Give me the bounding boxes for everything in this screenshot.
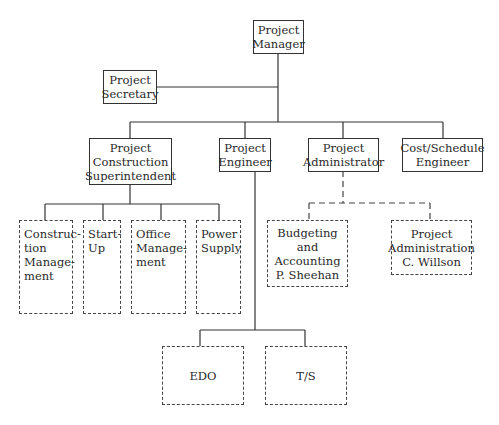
node-label: C. Willson [402,255,461,269]
node-label: tion [24,241,47,255]
node-label: ment [136,255,166,269]
node-label: Supply [201,241,241,255]
node-label: Project [411,227,453,241]
node-label: T/S [296,369,315,383]
node-label: Budgeting [277,226,337,240]
node-label: Superintendent [85,169,176,183]
node-construction-management: Construc- tion Manage- ment [19,220,73,314]
node-label: Manager [252,37,305,51]
node-project-manager: Project Manager [253,20,304,54]
node-label: Cost/Schedule [401,141,485,155]
node-project-administration: Project Administration C. Willson [391,220,472,275]
node-label: Construction [93,155,169,169]
node-label: Power [201,227,237,241]
node-edo: EDO [162,346,244,405]
node-label: and [297,240,319,254]
node-label: Project [109,73,151,87]
node-label: Office [136,227,171,241]
node-label: Project [224,141,266,155]
node-label: Start- [88,227,121,241]
node-label: Administrator [303,155,384,169]
node-label: Construc- [24,227,81,241]
node-project-administrator: Project Administrator [308,138,379,172]
node-office-management: Office Manage- ment [131,220,186,314]
node-label: EDO [189,369,216,383]
node-label: Manage- [24,255,75,269]
connector-lines [0,0,499,425]
node-label: Accounting [275,254,341,268]
node-cost-schedule-engineer: Cost/Schedule Engineer [402,138,483,172]
node-label: Up [88,241,105,255]
node-label: Engineer [416,155,469,169]
node-project-construction-superintendent: Project Construction Superintendent [89,138,172,185]
node-label: Project [323,141,365,155]
node-label: Project [110,141,152,155]
node-label: Manage- [136,241,187,255]
node-start-up: Start- Up [83,220,121,314]
node-label: P. Sheehan [276,268,339,282]
node-label: ment [24,269,54,283]
node-project-secretary: Project Secretary [103,70,157,104]
node-label: Engineer [218,155,271,169]
node-budgeting-and-accounting: Budgeting and Accounting P. Sheehan [267,220,348,287]
node-power-supply: Power Supply [196,220,241,314]
node-label: Administration [388,241,475,255]
node-t-s: T/S [265,346,347,405]
node-label: Project [258,23,300,37]
node-project-engineer: Project Engineer [219,138,271,172]
node-label: Secretary [102,87,159,101]
